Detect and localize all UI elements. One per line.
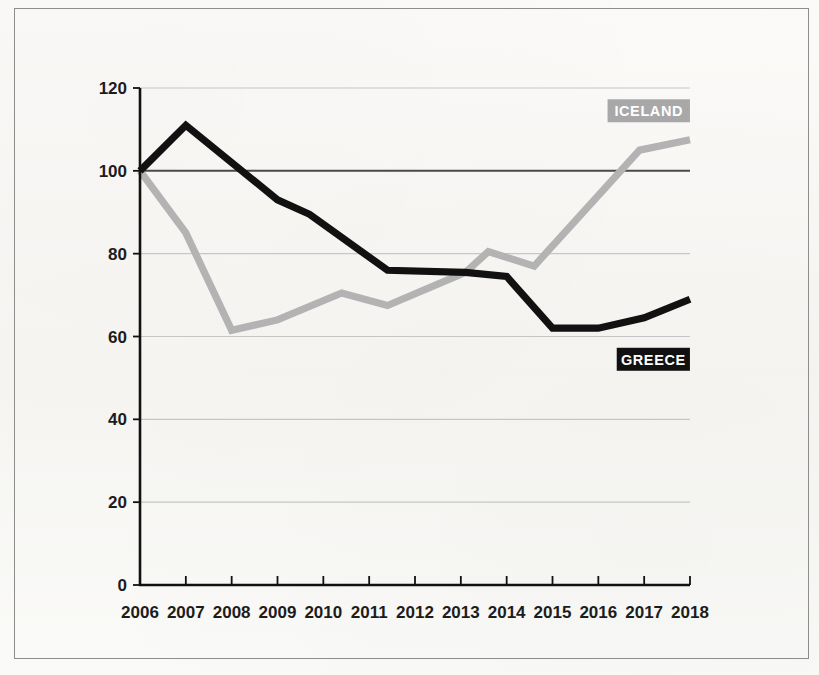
x-tick-label: 2006 (121, 603, 159, 622)
y-tick-label: 60 (108, 328, 127, 347)
series-group (140, 125, 690, 330)
x-tick-label: 2017 (625, 603, 663, 622)
x-axis-ticks: 2006200720082009201020112012201320142015… (121, 576, 709, 622)
y-tick-label: 100 (99, 162, 127, 181)
line-chart: 0204060801001202006200720082009201020112… (0, 0, 819, 675)
x-tick-label: 2014 (488, 603, 526, 622)
y-axis-ticks: 020406080100120 (99, 79, 140, 595)
x-tick-label: 2009 (259, 603, 297, 622)
x-tick-label: 2010 (304, 603, 342, 622)
y-tick-label: 40 (108, 410, 127, 429)
x-tick-label: 2013 (442, 603, 480, 622)
x-tick-label: 2011 (351, 603, 388, 622)
series-line-greece (140, 125, 690, 328)
x-tick-label: 2012 (396, 603, 434, 622)
x-tick-label: 2015 (534, 603, 572, 622)
series-label-text-iceland: ICELAND (614, 103, 683, 119)
x-tick-label: 2008 (213, 603, 251, 622)
y-tick-label: 80 (108, 245, 127, 264)
series-line-iceland (140, 140, 690, 331)
x-tick-label: 2007 (167, 603, 205, 622)
chart-figure: 0204060801001202006200720082009201020112… (0, 0, 819, 675)
y-tick-label: 20 (108, 493, 127, 512)
x-tick-label: 2018 (671, 603, 709, 622)
y-tick-label: 0 (118, 576, 127, 595)
series-label-text-greece: GREECE (621, 352, 686, 368)
y-tick-label: 120 (99, 79, 127, 98)
x-tick-label: 2016 (579, 603, 617, 622)
